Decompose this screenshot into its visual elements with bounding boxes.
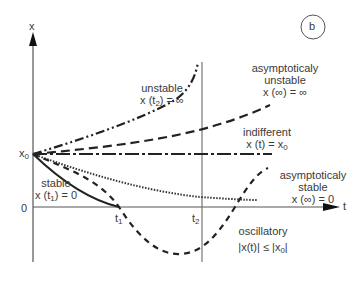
stable-label: stable x (t1) = 0 — [34, 177, 78, 205]
x0-tick-label: x0 — [19, 147, 29, 163]
y-axis-label: x — [29, 20, 35, 32]
asymptotically-stable-label: asymptoticaly stable x (∞) = 0 — [268, 169, 357, 205]
panel-label: b — [309, 20, 315, 32]
indifferent-label: indifferent x (t) = x0 — [232, 126, 302, 154]
t1-tick-label: t1 — [115, 212, 123, 228]
t2-tick-label: t2 — [192, 212, 200, 228]
asymptotically-unstable-label: asymptoticaly unstable x (∞) = ∞ — [240, 62, 330, 98]
unstable-label: unstable x (t2) = ∞ — [132, 82, 192, 110]
oscillatory-label: oscillatory |x(t)| ≤ |x0| — [228, 225, 298, 257]
stability-diagram — [0, 0, 357, 288]
zero-tick-label: 0 — [21, 202, 27, 214]
y-axis-arrow-icon — [29, 32, 37, 46]
